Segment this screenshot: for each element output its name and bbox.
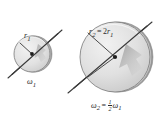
label-radius-2-equation: r2=2r1 [89, 28, 113, 38]
label-radius-2-rhs-sub: 1 [110, 31, 113, 38]
label-radius-2-lhs-sub: 2 [92, 31, 95, 38]
label-omega-1-sub: 1 [33, 81, 36, 88]
physics-figure-rotating-disks: r1 r2=2r1 ω1 ω2=12ω1 [0, 0, 160, 116]
label-angular-velocity-2-equation: ω2=12ω1 [91, 99, 121, 113]
label-radius-1-sub: 1 [27, 35, 30, 42]
label-radius-1: r1 [24, 32, 30, 42]
figure-canvas [0, 0, 160, 116]
label-omega-2-lhs-sub: 2 [97, 104, 100, 111]
large-disk-center-dot [113, 55, 117, 59]
label-omega-2-rhs-sub: 1 [118, 104, 121, 111]
small-disk-group [8, 30, 62, 78]
label-omega-2-fraction-denominator: 2 [108, 106, 112, 112]
label-omega-2-fraction-numerator: 1 [108, 99, 112, 106]
label-omega-2-equals: = [101, 101, 106, 110]
label-angular-velocity-1: ω1 [27, 78, 36, 88]
label-radius-2-equals: = [97, 27, 102, 36]
label-omega-2-fraction: 12 [108, 99, 112, 113]
